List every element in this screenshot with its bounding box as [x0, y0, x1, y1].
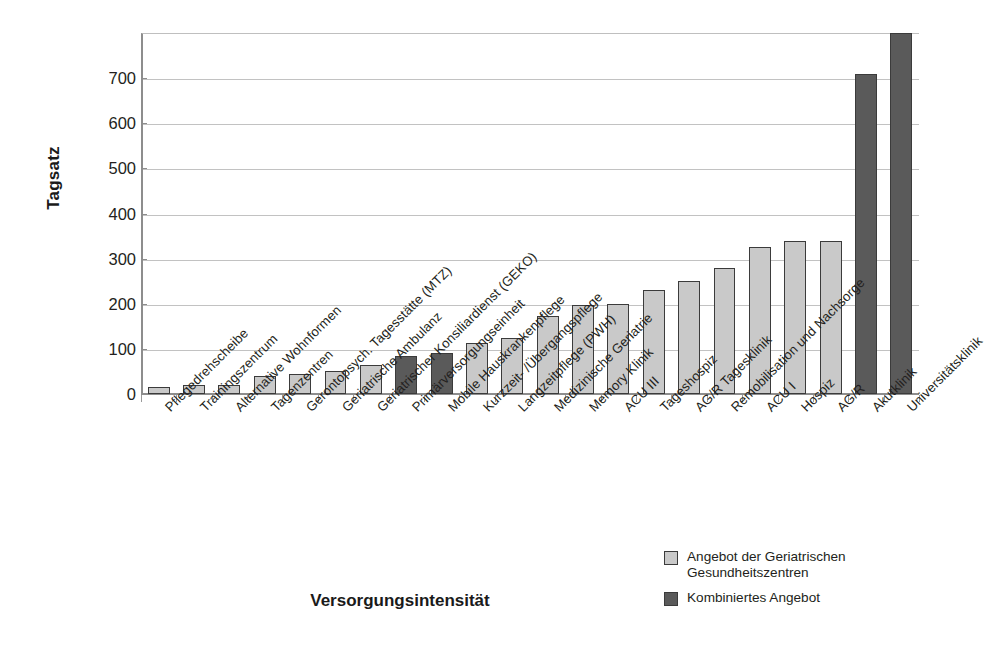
chart-legend: Angebot der Geriatrischen Gesundheitszen… [664, 549, 914, 615]
legend-label: Angebot der Geriatrischen Gesundheitszen… [687, 549, 892, 581]
legend-item: Kombiniertes Angebot [664, 590, 914, 606]
legend-item: Angebot der Geriatrischen Gesundheitszen… [664, 549, 914, 581]
x-tick-label: Hospiz [798, 375, 838, 415]
x-axis-title: Versorgungsintensität [240, 591, 560, 611]
legend-swatch-icon [664, 551, 678, 565]
legend-label: Kombiniertes Angebot [687, 590, 820, 606]
x-tick-label: AG/R [834, 381, 868, 415]
legend-swatch-icon [664, 592, 678, 606]
